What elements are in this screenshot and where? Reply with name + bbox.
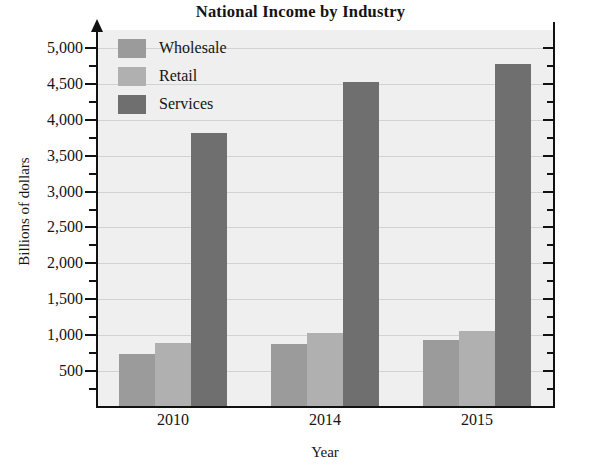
chart-figure: National Income by Industry Billions of …	[0, 0, 601, 470]
y-axis-tick-label: 2,500	[5, 219, 83, 235]
bar-services-2010	[191, 133, 227, 407]
axis-tick-minor	[547, 316, 555, 318]
y-axis-tick-label: 3,500	[5, 148, 83, 164]
gridline	[97, 192, 553, 193]
x-axis-label: Year	[97, 444, 553, 461]
axis-tick-minor	[89, 209, 97, 211]
axis-tick-major	[543, 47, 555, 49]
y-axis-tick-label: 1,000	[5, 327, 83, 343]
axis-tick-major	[85, 226, 97, 228]
axis-tick-major	[85, 83, 97, 85]
legend-swatch-wholesale	[118, 39, 146, 58]
axis-tick-minor	[547, 209, 555, 211]
axis-tick-minor	[547, 173, 555, 175]
axis-tick-minor	[89, 137, 97, 139]
axis-tick-minor	[89, 101, 97, 103]
legend-item-services: Services	[118, 92, 288, 116]
axis-tick-major	[543, 119, 555, 121]
axis-tick-major	[543, 191, 555, 193]
bar-retail-2014	[307, 333, 343, 407]
y-axis-tick-label: 500	[5, 363, 83, 379]
gridline	[97, 227, 553, 228]
y-axis-tick-label: 4,500	[5, 76, 83, 92]
legend-item-retail: Retail	[118, 64, 288, 88]
axis-tick-minor	[547, 388, 555, 390]
gridline	[97, 156, 553, 157]
axis-tick-minor	[89, 173, 97, 175]
bar-wholesale-2015	[423, 340, 459, 407]
axis-tick-major	[543, 262, 555, 264]
axis-tick-major	[543, 155, 555, 157]
axis-tick-major	[85, 155, 97, 157]
legend-item-wholesale: Wholesale	[118, 36, 288, 60]
x-axis-tick-label: 2014	[249, 411, 401, 429]
axis-tick-minor	[547, 101, 555, 103]
axis-tick-minor	[89, 280, 97, 282]
x-axis-line	[96, 406, 555, 408]
gridline	[97, 263, 553, 264]
axis-tick-major	[85, 262, 97, 264]
axis-tick-major	[543, 83, 555, 85]
axis-tick-minor	[547, 352, 555, 354]
axis-tick-minor	[547, 65, 555, 67]
y-axis-tick-label: 1,500	[5, 291, 83, 307]
legend-swatch-retail	[118, 67, 146, 86]
axis-tick-minor	[89, 352, 97, 354]
axis-tick-major	[543, 370, 555, 372]
legend-label: Services	[159, 95, 213, 113]
axis-tick-major	[85, 370, 97, 372]
y-axis-tick-label: 2,000	[5, 255, 83, 271]
axis-tick-major	[85, 191, 97, 193]
bar-services-2014	[343, 82, 379, 407]
axis-tick-minor	[89, 244, 97, 246]
axis-tick-major	[85, 47, 97, 49]
y-axis-arrow-icon	[91, 19, 103, 32]
axis-tick-major	[85, 334, 97, 336]
bar-services-2015	[495, 64, 531, 407]
bar-wholesale-2010	[119, 354, 155, 407]
legend-label: Retail	[159, 67, 197, 85]
axis-tick-major	[543, 226, 555, 228]
axis-tick-minor	[547, 280, 555, 282]
chart-legend: WholesaleRetailServices	[118, 36, 288, 120]
axis-tick-minor	[89, 316, 97, 318]
x-axis-tick-label: 2015	[401, 411, 553, 429]
right-axis-line	[553, 22, 555, 408]
bar-retail-2015	[459, 331, 495, 407]
axis-tick-minor	[89, 65, 97, 67]
axis-tick-major	[85, 119, 97, 121]
legend-swatch-services	[118, 95, 146, 114]
axis-tick-minor	[89, 388, 97, 390]
y-axis-tick-labels: 5001,0001,5002,0002,5003,0003,5004,0004,…	[0, 0, 83, 470]
bar-retail-2010	[155, 343, 191, 407]
axis-tick-major	[85, 298, 97, 300]
y-axis-tick-label: 3,000	[5, 184, 83, 200]
axis-tick-major	[543, 334, 555, 336]
legend-label: Wholesale	[159, 39, 227, 57]
y-axis-tick-label: 4,000	[5, 112, 83, 128]
axis-tick-minor	[547, 137, 555, 139]
x-axis-tick-label: 2010	[97, 411, 249, 429]
bar-wholesale-2014	[271, 344, 307, 407]
gridline	[97, 299, 553, 300]
axis-tick-minor	[547, 244, 555, 246]
axis-tick-major	[543, 298, 555, 300]
y-axis-tick-label: 5,000	[5, 40, 83, 56]
